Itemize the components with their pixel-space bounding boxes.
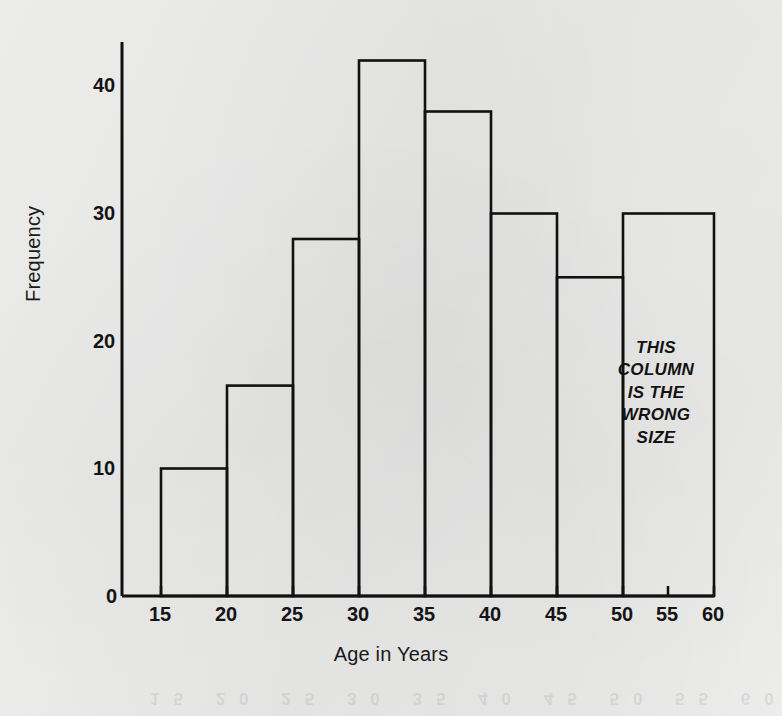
x-tick-label-60: 60 (702, 603, 724, 626)
annotation-line-4: WRONG (592, 404, 720, 426)
x-axis-title: Age in Years (0, 643, 782, 666)
y-axis-title: Frequency (22, 142, 45, 302)
axes (122, 42, 714, 596)
annotation-line-3: IS THE (592, 382, 720, 404)
y-tick-label-20: 20 (93, 330, 115, 353)
bar-35-40 (425, 112, 491, 597)
x-tick-label-50: 50 (611, 603, 633, 626)
x-tick-label-20: 20 (215, 603, 237, 626)
histogram-figure: 40 30 20 10 0 15 20 25 30 35 40 45 50 55… (0, 0, 782, 716)
y-tick-label-40: 40 (93, 74, 115, 97)
annotation-line-2: COLUMN (592, 359, 720, 381)
x-tick-label-15: 15 (149, 603, 171, 626)
bar-20-25 (227, 386, 293, 596)
wrong-size-annotation: THIS COLUMN IS THE WRONG SIZE (592, 337, 720, 449)
x-tick-label-30: 30 (347, 603, 369, 626)
x-tick-label-25: 25 (281, 603, 303, 626)
x-tick-label-45: 45 (545, 603, 567, 626)
annotation-line-5: SIZE (592, 427, 720, 449)
x-tick-label-40: 40 (479, 603, 501, 626)
x-tick-label-35: 35 (413, 603, 435, 626)
bar-30-35 (359, 61, 425, 597)
histogram-bars (161, 61, 714, 597)
y-tick-label-30: 30 (93, 202, 115, 225)
y-tick-label-0: 0 (106, 585, 117, 608)
bar-40-45 (491, 214, 557, 597)
annotation-line-1: THIS (592, 337, 720, 359)
y-tick-label-10: 10 (93, 457, 115, 480)
bar-15-20 (161, 469, 227, 597)
bar-25-30 (293, 239, 359, 596)
x-tick-label-55: 55 (656, 603, 678, 626)
